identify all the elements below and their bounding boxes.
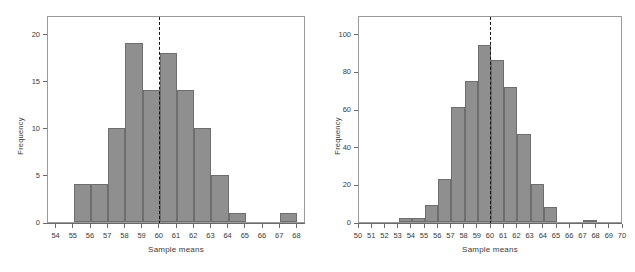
x-axis-tick: [595, 224, 596, 228]
histogram-bar: [160, 53, 177, 222]
histogram-bar: [229, 213, 246, 222]
histogram-figure: Frequency Sample means 05101520545556575…: [0, 0, 635, 272]
x-axis-tick: [158, 224, 159, 228]
x-axis-tick: [72, 224, 73, 228]
y-axis-tick: [43, 175, 47, 176]
x-axis-tick: [463, 224, 464, 228]
y-axis-tick-label: 100: [338, 30, 351, 39]
x-axis-tick: [244, 224, 245, 228]
x-axis-tick: [210, 224, 211, 228]
histogram-bar: [125, 43, 142, 222]
x-axis-tick: [358, 224, 359, 228]
x-axis-tick: [55, 224, 56, 228]
histogram-bar: [194, 128, 211, 222]
histogram-bar: [491, 60, 504, 222]
mean-reference-line: [490, 17, 491, 224]
mean-reference-line: [159, 17, 160, 224]
x-axis-tick: [490, 224, 491, 228]
x-axis-tick: [90, 224, 91, 228]
x-axis-tick: [622, 224, 623, 228]
y-axis-tick: [43, 128, 47, 129]
histogram-bar: [143, 90, 160, 222]
x-axis-tick: [450, 224, 451, 228]
x-axis-tick: [529, 224, 530, 228]
histogram-bar: [517, 134, 530, 222]
histogram-bar: [177, 90, 194, 222]
x-axis-label-left: Sample means: [47, 245, 305, 254]
x-axis-tick: [569, 224, 570, 228]
y-axis-tick-label: 20: [32, 30, 40, 39]
x-axis-tick-label: 68: [286, 231, 306, 240]
y-axis-tick-label: 60: [343, 105, 351, 114]
x-axis-tick: [371, 224, 372, 228]
x-axis-tick: [124, 224, 125, 228]
histogram-bar: [478, 45, 491, 222]
histogram-bar: [504, 87, 517, 222]
x-axis-tick: [516, 224, 517, 228]
y-axis-tick: [354, 72, 358, 73]
histogram-bar: [211, 175, 228, 222]
y-axis-tick-label: 10: [32, 124, 40, 133]
x-axis-tick: [424, 224, 425, 228]
histogram-bar: [108, 128, 125, 222]
y-axis-tick-label: 0: [347, 218, 351, 227]
x-axis-label-right: Sample means: [358, 245, 622, 254]
y-axis-tick-label: 15: [32, 77, 40, 86]
histogram-bar: [438, 179, 451, 222]
histogram-bar: [280, 213, 297, 222]
plot-area-right: [358, 16, 622, 223]
y-axis-tick: [43, 81, 47, 82]
histogram-bar: [399, 218, 412, 222]
y-axis-tick: [354, 110, 358, 111]
y-axis-tick-label: 80: [343, 67, 351, 76]
x-axis-tick: [141, 224, 142, 228]
x-axis-tick: [608, 224, 609, 228]
y-axis-tick: [354, 185, 358, 186]
y-axis-label-left: Frequency: [16, 117, 25, 154]
plot-inner-left: [48, 17, 304, 222]
x-axis-tick: [582, 224, 583, 228]
plot-area-left: [47, 16, 305, 223]
x-axis-tick: [437, 224, 438, 228]
y-axis-tick-label: 40: [343, 143, 351, 152]
y-axis-tick: [43, 34, 47, 35]
x-axis-tick: [279, 224, 280, 228]
x-axis-tick: [227, 224, 228, 228]
x-axis-tick: [556, 224, 557, 228]
histogram-bar: [531, 184, 544, 222]
x-axis-tick: [397, 224, 398, 228]
x-axis-tick: [410, 224, 411, 228]
x-axis-line: [358, 223, 622, 224]
x-axis-tick: [296, 224, 297, 228]
x-axis-tick: [542, 224, 543, 228]
x-axis-tick: [384, 224, 385, 228]
y-axis-tick: [354, 147, 358, 148]
histogram-bar: [91, 184, 108, 222]
x-axis-tick: [262, 224, 263, 228]
y-axis-tick-label: 20: [343, 180, 351, 189]
histogram-bar: [74, 184, 91, 222]
chart-panel-right: Frequency Sample means 02040608010050515…: [317, 0, 635, 272]
x-axis-tick: [193, 224, 194, 228]
histogram-bar: [412, 218, 425, 222]
histogram-bar: [544, 207, 557, 222]
x-axis-tick: [476, 224, 477, 228]
y-axis-tick-label: 0: [36, 218, 40, 227]
x-axis-tick: [503, 224, 504, 228]
x-axis-tick: [176, 224, 177, 228]
y-axis-tick-label: 5: [36, 171, 40, 180]
histogram-bar: [451, 107, 464, 222]
plot-inner-right: [359, 17, 621, 222]
x-axis-tick-label: 70: [612, 231, 632, 240]
y-axis-tick: [354, 34, 358, 35]
y-axis-label-right: Frequency: [333, 117, 342, 154]
histogram-bar: [425, 205, 438, 222]
histogram-bar: [583, 220, 596, 222]
histogram-bar: [465, 81, 478, 222]
x-axis-tick: [107, 224, 108, 228]
chart-panel-left: Frequency Sample means 05101520545556575…: [0, 0, 317, 272]
x-axis-line: [47, 223, 305, 224]
